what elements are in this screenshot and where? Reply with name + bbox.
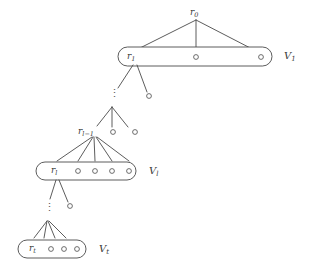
free-node-circle-lower: [68, 204, 73, 209]
edge-group-ellipsis-to-rlm1: [97, 107, 128, 127]
group-label-vt: Vt: [99, 244, 109, 254]
edge-group-rlm1-to-vl: [57, 137, 129, 161]
vertical-ellipsis-icon-lower: ⋮: [44, 202, 55, 213]
edge-group-ellipsis-to-vt: [34, 221, 66, 238]
edge-rl-1-to-vl-node: [94, 137, 95, 161]
rlm1-row-circles: [111, 130, 138, 135]
edge-r1-to-ellipsis: [118, 65, 133, 88]
node-circle: [76, 169, 81, 174]
node-circle: [110, 169, 115, 174]
node-circle: [111, 130, 116, 135]
free-node-circle-upper: [147, 94, 152, 99]
edge-group-rl-down: [50, 180, 68, 202]
tree-diagram-figure: r0 r1 rl−1 rl rt V1 Vl Vt ⋮ ⋮: [0, 0, 316, 275]
node-label-r1: r1: [127, 52, 135, 61]
edge-ellipsis-to-node: [112, 107, 128, 127]
node-label-r0: r0: [190, 8, 198, 17]
node-circle: [133, 130, 138, 135]
edge-rl-to-ellipsis: [50, 180, 56, 199]
vt-circle-nodes: [49, 247, 80, 252]
node-circle: [127, 169, 132, 174]
vertical-ellipsis-icon-upper: ⋮: [109, 88, 120, 99]
group-label-vl: Vl: [149, 166, 158, 176]
edge-rl-1-to-vl-node: [78, 137, 93, 161]
node-circle: [49, 247, 54, 252]
node-label-rl: rl: [51, 166, 57, 175]
edge-ellipsis-to-rl-1: [97, 107, 112, 126]
edge-r1-to-free-circle: [137, 65, 147, 92]
node-label-rt: rt: [29, 244, 36, 253]
node-circle: [259, 55, 264, 60]
node-circle: [194, 55, 199, 60]
edge-r0-to-r1: [134, 20, 196, 51]
edge-rl-1-to-rl: [57, 137, 92, 161]
node-circle: [93, 169, 98, 174]
group-label-v1: V1: [284, 51, 296, 61]
node-circle: [75, 247, 80, 252]
edge-rl-1-to-vl-node: [97, 137, 129, 161]
edge-group-r1-down: [118, 65, 147, 92]
diagram-canvas: [0, 0, 316, 275]
node-label-rl-1: rl−1: [78, 127, 94, 136]
node-circle: [62, 247, 67, 252]
edge-rl-1-to-vl-node: [96, 137, 112, 161]
edge-rl-to-free-circle: [59, 180, 68, 202]
